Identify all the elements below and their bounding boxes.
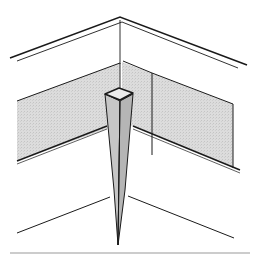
top-edge [10,17,247,68]
ground-lines [17,196,234,238]
corner-stake-illustration [0,0,262,260]
diagram-canvas [0,0,262,260]
corner-stake [105,88,133,245]
